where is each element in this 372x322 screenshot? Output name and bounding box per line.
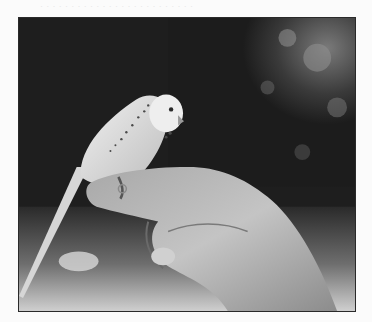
photo-scene	[19, 18, 355, 311]
bird-head	[149, 94, 183, 132]
budgie-photograph	[18, 17, 356, 312]
bleed-through-text: · · · · · · · · · · · · · · · · · · · · …	[40, 2, 360, 10]
fingernail	[151, 247, 175, 265]
foliage-bokeh	[168, 18, 355, 187]
bird-eye	[169, 107, 173, 111]
blurred-object	[59, 251, 99, 271]
